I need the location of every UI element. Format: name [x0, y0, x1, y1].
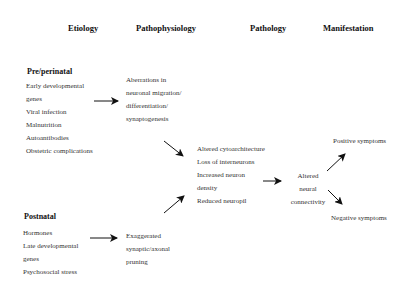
- arrow-to-negative: [328, 190, 342, 204]
- arrow-to-positive: [327, 154, 345, 171]
- arrow-pathophys-to-pathology: [164, 141, 183, 156]
- flow-arrows: [0, 0, 411, 295]
- arrow-postnatal-pathophys-to-pathology: [164, 196, 184, 213]
